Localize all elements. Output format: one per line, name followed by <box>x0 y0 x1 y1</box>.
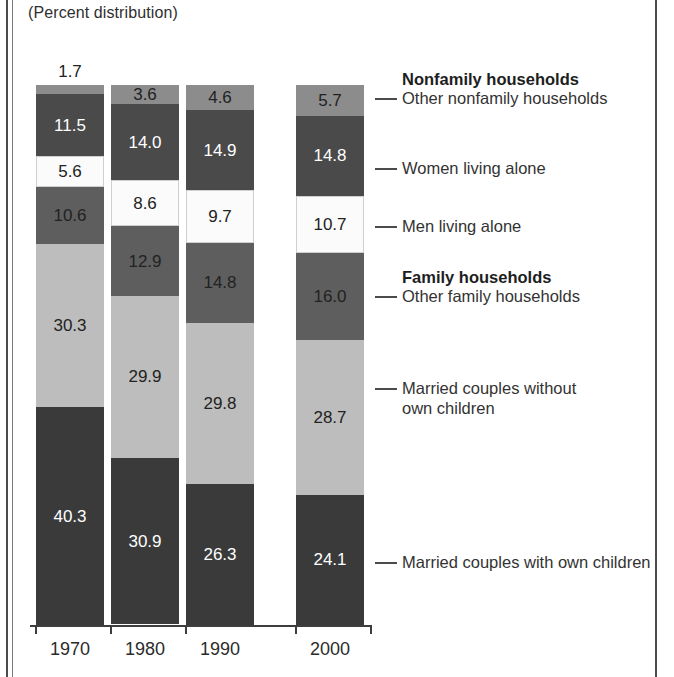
legend-leader-line-5 <box>375 562 397 564</box>
bar-segment-1990-5[interactable]: 26.3 <box>186 484 254 626</box>
chart-page: (Percent distribution) 1.711.55.610.630.… <box>0 0 674 677</box>
bar-segment-2000-0[interactable]: 5.7 <box>296 85 364 116</box>
x-axis-label-1980: 1980 <box>111 639 179 660</box>
bar-segment-1980-3[interactable]: 12.9 <box>111 226 179 296</box>
legend-leader-line-2 <box>375 226 397 228</box>
bar-segment-1970-1[interactable]: 11.5 <box>36 94 104 156</box>
plot-area: 1.711.55.610.630.340.319703.614.08.612.9… <box>0 0 674 677</box>
x-axis-label-1990: 1990 <box>186 639 254 660</box>
bar-segment-2000-4[interactable]: 28.7 <box>296 340 364 495</box>
bar-segment-1990-3[interactable]: 14.8 <box>186 243 254 323</box>
bar-segment-1970-3[interactable]: 10.6 <box>36 187 104 244</box>
bar-segment-1990-1[interactable]: 14.9 <box>186 110 254 190</box>
bar-segment-2000-1[interactable]: 14.8 <box>296 116 364 196</box>
legend-item-label-1[interactable]: Women living alone <box>402 158 546 178</box>
bar-segment-1980-0[interactable]: 3.6 <box>111 85 179 104</box>
bar-value-label-1970-0: 1.7 <box>36 62 104 82</box>
legend-item-label-0[interactable]: Other nonfamily households <box>402 88 607 108</box>
legend-leader-line-0 <box>375 98 397 100</box>
bar-segment-1990-4[interactable]: 29.8 <box>186 323 254 484</box>
bar-segment-1970-4[interactable]: 30.3 <box>36 244 104 408</box>
bar-segment-2000-2[interactable]: 10.7 <box>296 196 364 254</box>
bar-segment-1990-0[interactable]: 4.6 <box>186 85 254 110</box>
x-axis-tick-end <box>370 625 372 634</box>
legend-item-label-4[interactable]: Married couples without own children <box>402 378 576 418</box>
legend-group-heading-0: Nonfamily households <box>402 70 579 89</box>
bar-segment-1980-1[interactable]: 14.0 <box>111 104 179 180</box>
bar-segment-1990-2[interactable]: 9.7 <box>186 190 254 242</box>
legend-item-label-2[interactable]: Men living alone <box>402 216 521 236</box>
legend-leader-line-4 <box>375 388 397 390</box>
bar-segment-1970-5[interactable]: 40.3 <box>36 407 104 625</box>
x-axis-label-2000: 2000 <box>296 639 364 660</box>
legend-item-label-3[interactable]: Other family households <box>402 286 580 306</box>
bar-segment-1980-5[interactable]: 30.9 <box>111 458 179 625</box>
bar-segment-2000-3[interactable]: 16.0 <box>296 253 364 339</box>
bar-segment-1980-4[interactable]: 29.9 <box>111 296 179 457</box>
x-axis-line <box>30 625 372 627</box>
legend-leader-line-3 <box>375 296 397 298</box>
x-axis-label-1970: 1970 <box>36 639 104 660</box>
legend-group-heading-1: Family households <box>402 268 551 287</box>
bar-segment-1980-2[interactable]: 8.6 <box>111 180 179 226</box>
legend-leader-line-1 <box>375 168 397 170</box>
legend-item-label-5[interactable]: Married couples with own children <box>402 552 651 572</box>
bar-segment-1970-0[interactable] <box>36 85 104 94</box>
bar-segment-2000-5[interactable]: 24.1 <box>296 495 364 625</box>
bar-segment-1970-2[interactable]: 5.6 <box>36 156 104 186</box>
